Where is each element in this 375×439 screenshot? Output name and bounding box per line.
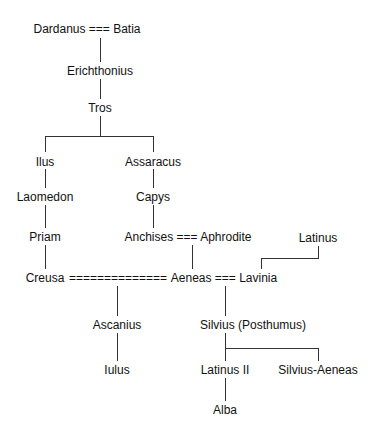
connector-assaracus-capys	[153, 169, 154, 188]
node-erichthonius: Erichthonius	[67, 64, 133, 78]
node-silvius-posthumus: Silvius (Posthumus)	[200, 318, 306, 332]
node-priam: Priam	[29, 230, 60, 244]
node-creusa: Creusa	[26, 271, 65, 285]
node-laomedon: Laomedon	[17, 190, 74, 204]
connector-erichthonius-tros	[100, 79, 101, 99]
node-ascanius: Ascanius	[93, 318, 142, 332]
connector-aeneas-lavinia-silvius	[225, 286, 226, 316]
connector-tros-branch	[100, 116, 101, 136]
node-capys: Capys	[136, 190, 170, 204]
node-iulus: Iulus	[104, 363, 129, 377]
connector-latinus-horizontal	[261, 258, 319, 259]
connector-silvius-latinus-ii	[225, 333, 226, 361]
connector-dardanus-erichthonius	[100, 38, 101, 62]
connector-tros-children	[45, 136, 154, 137]
node-anchises-aphrodite: Anchises === Aphrodite	[124, 230, 251, 244]
node-tros: Tros	[88, 101, 112, 115]
connector-to-silvius-aeneas	[318, 348, 319, 361]
connector-anchises-aeneas	[192, 245, 193, 269]
node-assaracus: Assaracus	[125, 155, 181, 169]
connector-latinus-ii-alba	[225, 378, 226, 401]
node-dardanus-batia: Dardanus === Batia	[33, 22, 140, 36]
node-alba: Alba	[213, 403, 237, 417]
connector-ascanius-iulus	[117, 333, 118, 361]
node-latinus-ii: Latinus II	[201, 363, 250, 377]
connector-ilus-laomedon	[45, 169, 46, 188]
connector-priam-creusa	[45, 245, 46, 269]
node-silvius-aeneas: Silvius-Aeneas	[278, 363, 357, 377]
node-latinus: Latinus	[299, 231, 338, 245]
connector-to-ilus	[45, 136, 46, 152]
marriage-link-creusa-aeneas: ==============	[69, 271, 167, 285]
connector-laomedon-priam	[45, 205, 46, 228]
node-ilus: Ilus	[36, 155, 55, 169]
connector-to-assaracus	[153, 136, 154, 152]
connector-capys-anchises	[153, 205, 154, 228]
connector-creusa-aeneas-ascanius	[117, 286, 118, 316]
connector-silvius-branch	[225, 348, 319, 349]
connector-latinus-down	[318, 246, 319, 258]
node-aeneas-lavinia: Aeneas === Lavinia	[171, 271, 277, 285]
connector-to-lavinia	[261, 258, 262, 269]
